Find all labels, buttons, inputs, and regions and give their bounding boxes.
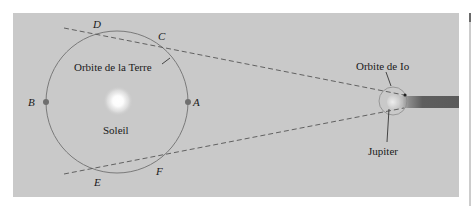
point-label-f: F xyxy=(155,165,163,177)
jupiter-planet-icon xyxy=(387,94,403,110)
point-label-b: B xyxy=(28,96,35,108)
earth-position-a-icon xyxy=(185,99,191,105)
sun-label: Soleil xyxy=(103,124,129,136)
earth-orbit-label: Orbite de la Terre xyxy=(74,61,152,73)
point-label-c: C xyxy=(158,30,166,42)
earth-position-b-icon xyxy=(43,99,49,105)
sun-glow-icon xyxy=(103,86,133,116)
io-orbit-label: Orbite de Io xyxy=(356,60,410,72)
point-label-d: D xyxy=(92,18,101,30)
jupiter-label: Jupiter xyxy=(368,145,398,157)
point-label-a: A xyxy=(192,96,200,108)
io-eclipse-diagram: D C B A E F Orbite de la Terre Soleil Or… xyxy=(0,0,472,206)
point-label-e: E xyxy=(93,176,101,188)
